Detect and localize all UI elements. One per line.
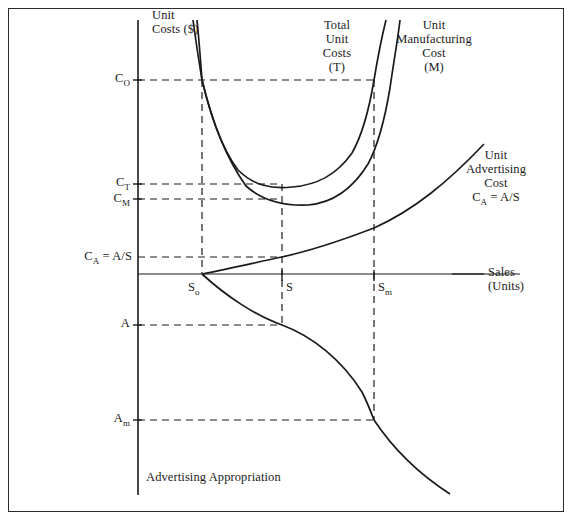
unit-advertising-cost-line1: Unit xyxy=(452,148,540,162)
y-tick-label-c-m: CM xyxy=(96,191,130,205)
label-unit-manufacturing-cost: Unit Manufacturing Cost (M) xyxy=(382,18,486,74)
unit-manufacturing-cost-line2: Manufacturing xyxy=(382,32,486,46)
y-tick-label-a-m: Am xyxy=(92,411,130,425)
x-tick-label-s-m: Sm xyxy=(378,280,392,294)
label-total-unit-costs: Total Unit Costs (T) xyxy=(306,18,368,74)
c-m-symbol: C xyxy=(113,191,121,205)
x-axis-title-line1: Sales xyxy=(488,265,524,279)
unit-advertising-cost-line2: Advertising xyxy=(452,162,540,176)
unit-advertising-cost-formula: = A/S xyxy=(487,190,520,204)
x-tick-label-s: S xyxy=(286,280,293,294)
chart-svg xyxy=(0,0,572,526)
figure-container: Unit Costs ($) Sales (Units) Total Unit … xyxy=(0,0,572,526)
x-tick-label-s-zero: So xyxy=(188,280,200,294)
s-zero-subscript: o xyxy=(195,287,200,297)
y-tick-label-a: A xyxy=(96,316,130,330)
total-unit-costs-line3: Costs xyxy=(306,46,368,60)
total-unit-costs-line4: (T) xyxy=(306,60,368,74)
curve-advertising-appropriation xyxy=(202,274,450,494)
s-symbol: S xyxy=(286,280,293,294)
c-zero-subscript: O xyxy=(123,78,130,88)
y-axis-title-line1: Unit xyxy=(152,8,198,22)
c-a-level-formula: = A/S xyxy=(99,249,132,263)
unit-manufacturing-cost-line3: Cost xyxy=(382,46,486,60)
unit-advertising-cost-symbol: C xyxy=(472,190,480,204)
y-tick-label-c-t: CT xyxy=(96,175,130,189)
bottom-caption: Advertising Appropriation xyxy=(146,470,281,484)
a-m-subscript: m xyxy=(123,418,130,428)
unit-manufacturing-cost-line1: Unit xyxy=(382,18,486,32)
c-a-level-symbol: C xyxy=(84,249,92,263)
total-unit-costs-line1: Total xyxy=(306,18,368,32)
a-m-symbol: A xyxy=(114,411,123,425)
curve-unit-manufacturing-cost xyxy=(197,20,400,205)
s-zero-symbol: S xyxy=(188,280,195,294)
y-tick-label-c-zero: CO xyxy=(96,71,130,85)
x-axis-title: Sales (Units) xyxy=(488,265,524,293)
label-c-a-level: CA = A/S xyxy=(40,249,132,263)
s-m-symbol: S xyxy=(378,280,385,294)
unit-advertising-cost-line4: CA = A/S xyxy=(452,190,540,204)
unit-advertising-cost-line3: Cost xyxy=(452,176,540,190)
s-m-subscript: m xyxy=(385,287,392,297)
y-axis-title-line2: Costs ($) xyxy=(152,22,198,36)
x-axis-title-line2: (Units) xyxy=(488,279,524,293)
unit-manufacturing-cost-line4: (M) xyxy=(382,60,486,74)
c-m-subscript: M xyxy=(122,198,130,208)
label-unit-advertising-cost: Unit Advertising Cost CA = A/S xyxy=(452,148,540,204)
a-symbol: A xyxy=(121,316,130,330)
c-t-subscript: T xyxy=(124,182,130,192)
y-axis-title: Unit Costs ($) xyxy=(152,8,198,36)
total-unit-costs-line2: Unit xyxy=(306,32,368,46)
